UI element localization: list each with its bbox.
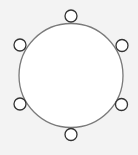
seat-upper-right [116, 40, 128, 52]
seat-bottom [65, 129, 77, 141]
table-circle [19, 24, 123, 128]
seat-lower-left [14, 98, 26, 110]
seat-upper-left [14, 39, 26, 51]
seat-top [65, 10, 77, 22]
seat-lower-right [116, 99, 128, 111]
round-table-diagram [0, 0, 138, 155]
